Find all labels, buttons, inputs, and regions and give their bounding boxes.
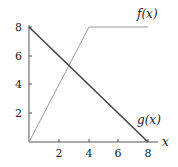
x-tick-label: 6 [115, 147, 122, 160]
y-tick-label: 4 [15, 78, 22, 91]
x-tick-label: 4 [86, 147, 93, 160]
y-tick-label: 2 [15, 107, 22, 120]
chart: 2 4 6 8 2 4 6 8 x f(x) g(x) [0, 0, 178, 167]
f-label: f(x) [136, 7, 158, 21]
x-tick-label: 2 [56, 147, 63, 160]
g-label: g(x) [137, 113, 161, 127]
series-g-line [29, 27, 148, 142]
y-tick-label: 8 [15, 21, 22, 34]
x-axis-label: x [162, 135, 169, 149]
y-tick-label: 6 [15, 50, 22, 63]
x-tick-label: 8 [145, 147, 152, 160]
